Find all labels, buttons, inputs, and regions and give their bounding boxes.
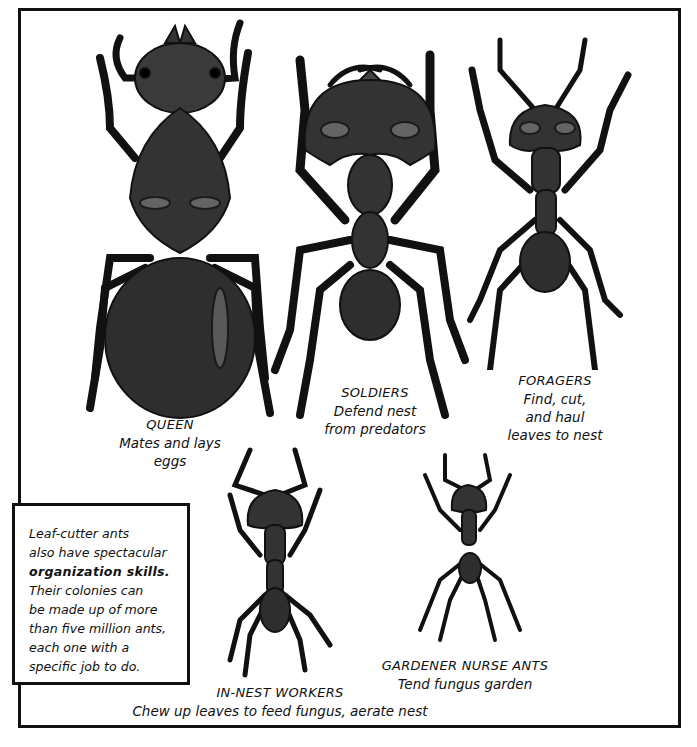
info-line: than five million ants, (29, 619, 177, 638)
gardener-nurse-ant-illustration (410, 450, 530, 650)
info-line-bold: organization skills. (29, 562, 177, 581)
info-line: specific job to do. (29, 657, 177, 676)
foragers-title: FORAGERS (490, 372, 620, 390)
gardener-nurse-ants-desc: Tend fungus garden (370, 675, 560, 693)
soldier-ant-illustration (270, 40, 470, 420)
queen-ant-illustration (80, 18, 280, 428)
in-nest-worker-ant-illustration (210, 445, 340, 680)
gardener-nurse-ants-title: GARDENER NURSE ANTS (370, 657, 560, 675)
soldiers-label: SOLDIERS Defend nest from predators (305, 384, 445, 438)
info-line: be made up of more (29, 600, 177, 619)
foragers-desc-line: Find, cut, (490, 390, 620, 408)
queen-desc-line: Mates and lays (110, 434, 230, 452)
soldiers-desc-line: from predators (305, 420, 445, 438)
info-bold-text: organization skills. (29, 564, 170, 579)
queen-desc-line: eggs (110, 452, 230, 470)
soldiers-title: SOLDIERS (305, 384, 445, 402)
in-nest-workers-desc: Chew up leaves to feed fungus, aerate ne… (110, 702, 450, 720)
foragers-label: FORAGERS Find, cut, and haul leaves to n… (490, 372, 620, 444)
info-box: Leaf-cutter ants also have spectacular o… (12, 503, 190, 685)
gardener-nurse-ants-label: GARDENER NURSE ANTS Tend fungus garden (370, 657, 560, 693)
info-line: each one with a (29, 638, 177, 657)
foragers-desc-line: leaves to nest (490, 426, 620, 444)
soldiers-desc-line: Defend nest (305, 402, 445, 420)
queen-title: QUEEN (110, 416, 230, 434)
foragers-desc-line: and haul (490, 408, 620, 426)
info-line: also have spectacular (29, 543, 177, 562)
queen-label: QUEEN Mates and lays eggs (110, 416, 230, 470)
info-line: Their colonies can (29, 581, 177, 600)
forager-ant-illustration (460, 30, 640, 370)
info-line: Leaf-cutter ants (29, 524, 177, 543)
